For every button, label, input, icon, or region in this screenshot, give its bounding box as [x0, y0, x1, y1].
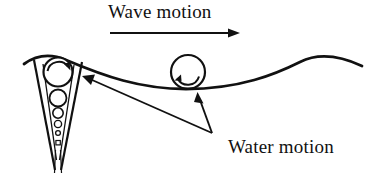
vortex-circle-3	[53, 108, 63, 118]
diagram-canvas	[0, 0, 370, 190]
wave-water-motion-figure: Wave motion Water motion	[0, 0, 370, 190]
water-motion-label: Water motion	[228, 136, 334, 158]
left-vortex-cone	[34, 58, 82, 174]
vortex-circle-5	[56, 131, 61, 136]
arrow-right-icon	[228, 28, 240, 37]
vortex-circle-4	[54, 120, 61, 127]
arrow-pointer-icon-right	[194, 92, 204, 104]
vortex-terminal-square	[56, 141, 60, 145]
clockwise-arc-arrow-icon-right	[175, 75, 200, 85]
right-orbital-circle	[171, 55, 205, 89]
wave-direction-arrow-group	[110, 28, 240, 37]
orbital-rotation-arrowhead	[175, 75, 182, 82]
wave-motion-label: Wave motion	[108, 1, 212, 23]
vortex-circle-2	[50, 90, 67, 107]
